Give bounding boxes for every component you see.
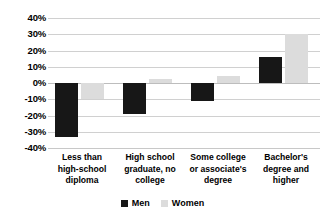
y-axis-tick-label: 20% — [2, 46, 46, 55]
bar-men — [259, 57, 282, 83]
x-axis-category-label: High schoolgraduate, nocollege — [116, 152, 184, 187]
category-label-line: diploma — [48, 175, 116, 187]
bar-men — [123, 83, 146, 114]
category-label-line: Bachelor's — [252, 152, 320, 164]
category-label-line: degree and — [252, 164, 320, 176]
category-label-line: Some college — [184, 152, 252, 164]
y-axis-tick-label: 40% — [2, 13, 46, 22]
legend-label: Men — [132, 198, 150, 208]
legend-item-women[interactable]: Women — [161, 198, 204, 208]
women-swatch-icon — [161, 200, 168, 207]
x-axis-line — [48, 148, 320, 149]
chart-legend: MenWomen — [0, 198, 325, 208]
category-label-line: High school — [116, 152, 184, 164]
y-axis: 40%30%20%10%0%-10%-20%-30%-40% — [0, 0, 46, 218]
y-axis-tick-label: -10% — [2, 94, 46, 103]
category-label-line: or associate's — [184, 164, 252, 176]
y-axis-tick-label: 0% — [2, 78, 46, 87]
y-axis-tick-label: 10% — [2, 62, 46, 71]
legend-label: Women — [172, 198, 204, 208]
y-axis-tick-label: -30% — [2, 127, 46, 136]
x-axis-category-label: Less thanhigh-schooldiploma — [48, 152, 116, 187]
y-axis-tick-label: -20% — [2, 111, 46, 120]
bar-men — [191, 83, 214, 101]
category-label-line: Less than — [48, 152, 116, 164]
bar-chart: 40%30%20%10%0%-10%-20%-30%-40% Less than… — [0, 0, 325, 218]
y-axis-tick-label: 30% — [2, 29, 46, 38]
y-axis-tick-label: -40% — [2, 143, 46, 152]
bar-group — [116, 18, 184, 148]
legend-item-men[interactable]: Men — [121, 198, 150, 208]
men-swatch-icon — [121, 200, 128, 207]
bar-women — [81, 83, 104, 99]
category-label-line: higher — [252, 175, 320, 187]
x-axis-category-labels: Less thanhigh-schooldiplomaHigh schoolgr… — [48, 152, 320, 194]
bar-women — [217, 76, 240, 83]
bar-group — [252, 18, 320, 148]
x-axis-category-label: Bachelor'sdegree andhigher — [252, 152, 320, 187]
category-label-line: college — [116, 175, 184, 187]
bar-women — [285, 34, 308, 83]
bar-men — [55, 83, 78, 137]
bar-women — [149, 79, 172, 83]
category-label-line: graduate, no — [116, 164, 184, 176]
bar-group — [184, 18, 252, 148]
category-label-line: high-school — [48, 164, 116, 176]
x-axis-category-label: Some collegeor associate'sdegree — [184, 152, 252, 187]
plot-area — [48, 18, 320, 148]
category-label-line: degree — [184, 175, 252, 187]
bar-group — [48, 18, 116, 148]
